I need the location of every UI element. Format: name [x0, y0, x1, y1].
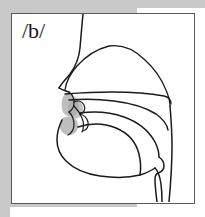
soft-palate	[80, 112, 159, 157]
gray-backdrop-top-strip	[0, 0, 205, 8]
pharyngeal-wall	[169, 106, 172, 202]
facial-profile	[59, 14, 83, 92]
figure-panel: /b/	[11, 13, 195, 204]
phonetics-diagram-page: /b/	[0, 0, 205, 217]
phoneme-label: /b/	[22, 20, 45, 42]
gray-backdrop-left-strip	[0, 0, 10, 217]
tongue-body	[78, 124, 141, 174]
nasal-cavity	[65, 46, 171, 106]
